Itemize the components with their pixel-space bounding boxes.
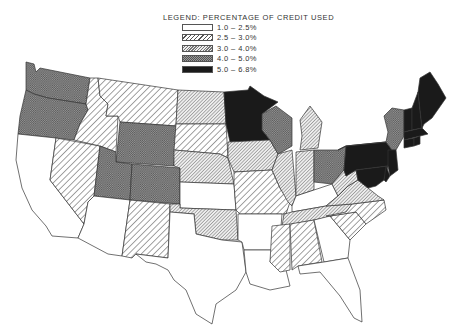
state-ct bbox=[404, 138, 414, 148]
state-nd bbox=[176, 90, 226, 124]
state-vt bbox=[404, 108, 412, 132]
state-nm bbox=[122, 200, 170, 258]
us-map bbox=[0, 0, 454, 332]
state-wy bbox=[116, 122, 176, 166]
state-ny bbox=[338, 108, 404, 150]
state-fl bbox=[298, 258, 362, 322]
state-ks bbox=[180, 182, 236, 210]
state-ms bbox=[270, 224, 290, 272]
state-me bbox=[418, 72, 446, 128]
state-ia bbox=[228, 140, 278, 172]
state-co bbox=[130, 164, 180, 204]
state-nj bbox=[388, 150, 398, 176]
state-in bbox=[296, 150, 314, 196]
state-mi bbox=[300, 106, 322, 150]
state-ri bbox=[414, 136, 420, 146]
